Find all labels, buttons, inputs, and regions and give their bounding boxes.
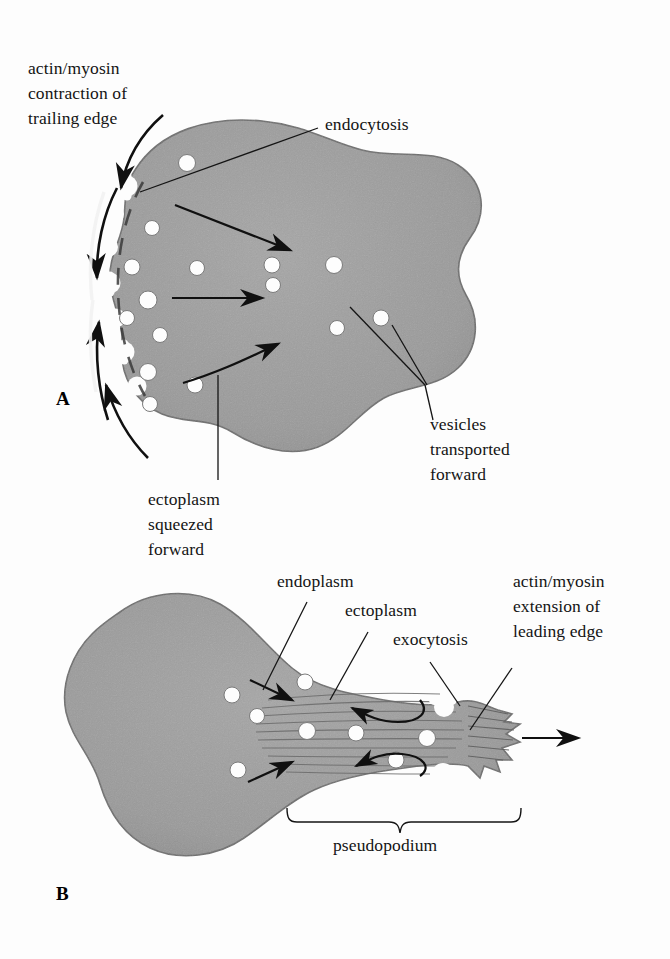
panel-letter-b: B [56,883,69,905]
cell-motility-diagram [0,0,670,959]
panel-letter-a: A [56,388,70,410]
label-pseudopodium: pseudopodium [333,833,437,858]
label-vesicles-transported: vesicles transported forward [430,412,510,487]
pseudopodium-brace [287,808,521,833]
label-actin-myosin-leading: actin/myosin extension of leading edge [513,569,605,644]
label-exocytosis: exocytosis [393,627,468,652]
label-ectoplasm-b: ectoplasm [345,598,417,623]
panel-b-cell [65,594,578,856]
panel-a-cell [91,115,482,480]
label-endocytosis: endocytosis [325,112,409,137]
figure-canvas: actin/myosin contraction of trailing edg… [0,0,670,959]
label-ectoplasm-squeezed: ectoplasm squeezed forward [148,487,220,562]
label-endoplasm: endoplasm [277,569,354,594]
label-actin-myosin-trailing: actin/myosin contraction of trailing edg… [28,56,127,131]
